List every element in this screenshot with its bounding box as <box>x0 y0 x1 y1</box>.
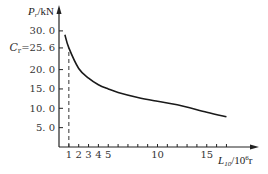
x-tick-label: 1 <box>66 149 72 160</box>
y-tick-label: 20. 0 <box>30 64 55 75</box>
x-tick-label: 10 <box>151 149 164 160</box>
x-tick-label: 3 <box>85 149 91 160</box>
y-axis-label: Pr/kN <box>27 5 54 19</box>
y-tick-label: 30. 0 <box>30 25 55 36</box>
tick-labels: 1234510155. 010. 015. 020. 0Cr=25. 630. … <box>9 25 213 160</box>
load-life-curve <box>65 35 227 117</box>
y-tick-label: 15. 0 <box>30 83 55 94</box>
y-tick-label: Cr=25. 6 <box>9 41 55 55</box>
x-axis-label: L10/106r <box>217 154 253 168</box>
x-tick-label: 2 <box>76 149 82 160</box>
x-tick-label: 15 <box>200 149 213 160</box>
x-tick-label: 5 <box>105 149 111 160</box>
x-tick-label: 4 <box>95 149 101 160</box>
y-tick-label: 5. 0 <box>36 122 55 133</box>
y-axis-arrow-icon <box>57 5 62 14</box>
ticks <box>59 31 226 147</box>
y-tick-label: 10. 0 <box>30 103 55 114</box>
chart: 1234510155. 010. 015. 020. 0Cr=25. 630. … <box>0 0 268 174</box>
x-axis-arrow-icon <box>250 145 259 150</box>
